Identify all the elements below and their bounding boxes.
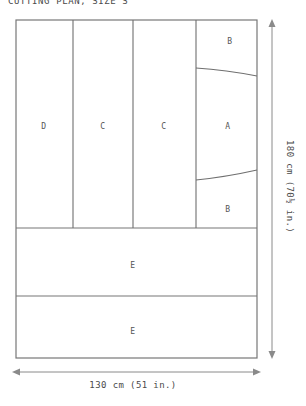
cutting-plan-diagram: CUTTING PLAN, SIZE S DCCBABEE 130 cm (51… <box>0 0 306 406</box>
dimension-arrow-up-icon <box>269 19 276 27</box>
fabric-width-label: 130 cm (51 in.) <box>89 380 176 390</box>
fabric-layout-svg <box>0 0 306 406</box>
dimension-arrow-right-icon <box>253 369 261 376</box>
fabric-height-label: 180 cm (70½ in.) <box>285 140 295 233</box>
dimension-arrow-left-icon <box>12 369 20 376</box>
dimension-arrow-down-icon <box>269 351 276 359</box>
